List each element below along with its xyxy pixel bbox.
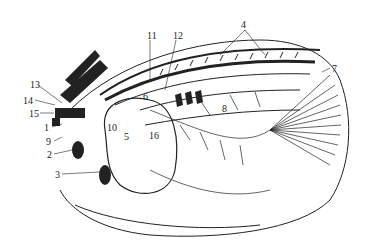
figure-label-14: 14 [23, 96, 33, 106]
figure-label-12: 12 [173, 31, 183, 41]
figure-label-16: 16 [149, 131, 159, 141]
figure-label-2: 2 [47, 150, 52, 160]
anatomical-diagram [0, 0, 366, 242]
figure-label-15: 15 [29, 109, 39, 119]
figure-label-10: 10 [107, 123, 117, 133]
central-organ [104, 98, 176, 193]
figure-label-8: 8 [222, 104, 227, 114]
figure-label-11: 11 [147, 31, 157, 41]
figure-label-4: 4 [241, 20, 246, 30]
figure-label-1: 1 [44, 123, 49, 133]
figure-label-13: 13 [30, 80, 40, 90]
figure-label-5: 5 [124, 132, 129, 142]
figure-label-7: 7 [332, 64, 337, 74]
figure-label-9: 9 [46, 137, 51, 147]
figure-label-6: 6 [143, 92, 148, 102]
figure-label-3: 3 [55, 170, 60, 180]
